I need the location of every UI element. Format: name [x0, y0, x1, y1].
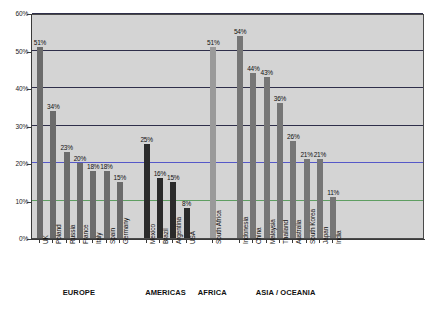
bar-chart: 51%34%23%20%18%18%15%25%16%15%8%51%54%44… [0, 0, 444, 313]
x-label-indonesia: Indonesia [242, 217, 249, 244]
x-tick-australia [292, 240, 293, 243]
bar-value-japan: 21% [309, 151, 331, 158]
x-label-usa: USA [189, 231, 196, 244]
y-tick-label-50: 50% [2, 48, 28, 55]
bar-thailand [277, 103, 283, 238]
bar-value-russia: 23% [56, 144, 78, 151]
x-label-russia: Russia [69, 225, 76, 244]
x-tick-malaysia [266, 240, 267, 243]
bar-value-australia: 26% [282, 133, 304, 140]
y-tick-label-60: 60% [2, 10, 28, 17]
x-tick-india [332, 240, 333, 243]
x-axis-line [31, 239, 425, 240]
x-label-mexico: Mexico [149, 224, 156, 244]
x-tick-indonesia [239, 240, 240, 243]
bar-value-india: 11% [322, 189, 344, 196]
x-tick-poland [52, 240, 53, 243]
x-label-australia: Australia [295, 220, 302, 244]
x-label-argentina: Argentina [175, 217, 182, 244]
plot-area: 51%34%23%20%18%18%15%25%16%15%8%51%54%44… [31, 14, 424, 239]
bar-value-usa: 8% [176, 200, 198, 207]
x-tick-russia [66, 240, 67, 243]
x-label-poland: Poland [55, 224, 62, 244]
region-label-asia-oceania: ASIA / OCEANIA [226, 288, 346, 297]
x-label-italy: Italy [95, 233, 102, 244]
x-label-malaysia: Malaysia [269, 219, 276, 244]
x-label-brazil: Brazil [162, 228, 169, 244]
x-tick-mexico [146, 240, 147, 243]
x-label-south-korea: South Korea [309, 209, 316, 244]
x-label-china: China [255, 228, 262, 244]
bar-value-france: 20% [69, 155, 91, 162]
y-tick-label-10: 10% [2, 198, 28, 205]
x-label-france: France [82, 224, 89, 244]
x-label-germany: Germany [122, 218, 129, 244]
gridline-60 [32, 13, 423, 14]
x-tick-south-korea [306, 240, 307, 243]
y-tick-label-20: 20% [2, 160, 28, 167]
x-tick-spain [106, 240, 107, 243]
bars-layer: 51%34%23%20%18%18%15%25%16%15%8%51%54%44… [32, 15, 423, 238]
x-label-japan: Japan [322, 227, 329, 244]
bar-value-spain: 18% [96, 163, 118, 170]
bar-value-malaysia: 43% [256, 69, 278, 76]
y-tick-20 [27, 164, 31, 165]
y-tick-40 [27, 89, 31, 90]
y-tick-30 [27, 127, 31, 128]
bar-uk [37, 47, 43, 238]
y-axis-line [31, 14, 32, 240]
x-tick-argentina [172, 240, 173, 243]
bar-value-argentina: 15% [162, 174, 184, 181]
y-tick-label-30: 30% [2, 123, 28, 130]
x-label-spain: Spain [109, 228, 116, 244]
x-tick-uk [39, 240, 40, 243]
x-tick-japan [319, 240, 320, 243]
x-tick-germany [119, 240, 120, 243]
x-label-uk: UK [42, 235, 49, 244]
bar-value-indonesia: 54% [229, 28, 251, 35]
y-tick-label-40: 40% [2, 85, 28, 92]
bar-value-germany: 15% [109, 174, 131, 181]
bar-value-uk: 51% [29, 39, 51, 46]
x-tick-france [79, 240, 80, 243]
x-tick-italy [92, 240, 93, 243]
x-label-south-africa: South Africa [215, 210, 222, 244]
y-tick-10 [27, 202, 31, 203]
bar-italy [90, 171, 96, 239]
y-tick-60 [27, 14, 31, 15]
y-tick-50 [27, 52, 31, 53]
bar-value-mexico: 25% [136, 136, 158, 143]
x-tick-brazil [159, 240, 160, 243]
x-tick-usa [186, 240, 187, 243]
bar-value-thailand: 36% [269, 95, 291, 102]
x-tick-south-africa [212, 240, 213, 243]
bar-poland [50, 111, 56, 239]
x-label-thailand: Thailand [282, 220, 289, 244]
bar-china [250, 73, 256, 238]
x-tick-china [252, 240, 253, 243]
x-label-india: India [335, 230, 342, 244]
bar-value-poland: 34% [42, 103, 64, 110]
bar-value-south-africa: 51% [202, 39, 224, 46]
y-tick-label-0: 0% [2, 235, 28, 242]
x-tick-thailand [279, 240, 280, 243]
